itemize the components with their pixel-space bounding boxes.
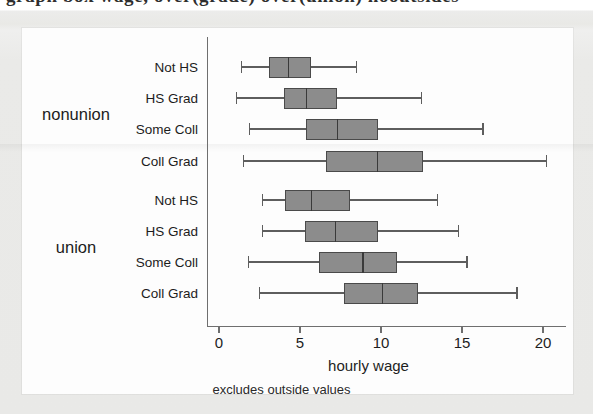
- upper-whisker-cap: [437, 194, 438, 206]
- upper-whisker-line: [423, 160, 546, 161]
- upper-whisker-cap: [516, 287, 517, 299]
- x-tick-label-0: 0: [215, 334, 223, 351]
- lower-whisker-line: [263, 230, 305, 231]
- lower-whisker-line: [243, 160, 326, 161]
- category-label-union-not-hs: Not HS: [48, 193, 198, 208]
- lower-whisker-line: [260, 292, 344, 293]
- x-axis-line: [207, 326, 566, 327]
- lower-whisker-cap: [262, 225, 263, 237]
- median-line: [382, 283, 383, 304]
- iqr-box: [269, 57, 311, 78]
- upper-whisker-line: [350, 199, 437, 200]
- upper-whisker-cap: [546, 155, 547, 167]
- box-plot-figure: 05101520 Not HSHS GradSome CollColl Grad…: [0, 0, 593, 414]
- median-line: [362, 252, 363, 273]
- lower-whisker-line: [263, 199, 286, 200]
- upper-whisker-cap: [458, 225, 459, 237]
- group-label-nonunion: nonunion: [30, 105, 122, 124]
- lower-whisker-cap: [248, 256, 249, 268]
- lower-whisker-line: [248, 261, 319, 262]
- upper-whisker-line: [397, 261, 467, 262]
- x-tick-10: [380, 327, 381, 333]
- x-tick-label-15: 15: [454, 334, 471, 351]
- lower-whisker-cap: [249, 123, 250, 135]
- iqr-box: [319, 252, 397, 273]
- category-label-nonunion-not-hs: Not HS: [48, 60, 198, 75]
- x-tick-label-10: 10: [373, 334, 390, 351]
- iqr-box: [326, 151, 423, 172]
- x-tick-label-5: 5: [296, 334, 304, 351]
- x-tick-5: [299, 327, 300, 333]
- lower-whisker-cap: [262, 194, 263, 206]
- iqr-box: [285, 190, 350, 211]
- upper-whisker-cap: [421, 92, 422, 104]
- x-tick-20: [542, 327, 543, 333]
- median-line: [377, 151, 378, 172]
- category-label-nonunion-hs-grad: HS Grad: [48, 91, 198, 106]
- y-axis-line: [207, 37, 208, 327]
- median-line: [337, 119, 338, 140]
- lower-whisker-line: [250, 128, 307, 129]
- iqr-box: [305, 221, 378, 242]
- chart-note: excludes outside values: [0, 382, 593, 397]
- x-tick-0: [218, 327, 219, 333]
- iqr-box: [306, 119, 377, 140]
- upper-whisker-cap: [356, 61, 357, 73]
- category-label-nonunion-coll-grad: Coll Grad: [48, 154, 198, 169]
- iqr-box: [284, 88, 337, 109]
- lower-whisker-cap: [241, 61, 242, 73]
- category-label-nonunion-some-coll: Some Coll: [48, 122, 198, 137]
- upper-whisker-cap: [466, 256, 467, 268]
- x-tick-label-20: 20: [535, 334, 552, 351]
- upper-whisker-line: [378, 230, 459, 231]
- upper-whisker-line: [418, 292, 517, 293]
- lower-whisker-cap: [259, 287, 260, 299]
- upper-whisker-line: [337, 97, 421, 98]
- lower-whisker-cap: [243, 155, 244, 167]
- lower-whisker-line: [237, 97, 284, 98]
- lower-whisker-cap: [236, 92, 237, 104]
- category-label-union-some-coll: Some Coll: [48, 255, 198, 270]
- group-label-union: union: [30, 237, 122, 256]
- x-tick-15: [461, 327, 462, 333]
- median-line: [335, 221, 336, 242]
- upper-whisker-line: [311, 66, 356, 67]
- x-axis-label: hourly wage: [0, 357, 593, 374]
- median-line: [311, 190, 312, 211]
- upper-whisker-line: [378, 128, 483, 129]
- category-label-union-coll-grad: Coll Grad: [48, 286, 198, 301]
- median-line: [306, 88, 307, 109]
- median-line: [288, 57, 289, 78]
- lower-whisker-line: [242, 66, 270, 67]
- upper-whisker-cap: [482, 123, 483, 135]
